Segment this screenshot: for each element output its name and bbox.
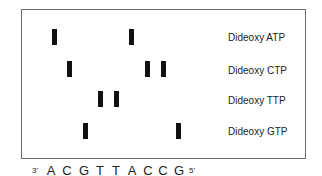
- sequence-base: C: [62, 163, 71, 176]
- sequence-base: C: [143, 163, 152, 176]
- sequence-base: A: [47, 163, 56, 176]
- band-atp-col6: [129, 29, 134, 45]
- sequence-base: C: [158, 163, 167, 176]
- sequence-base: T: [112, 163, 120, 176]
- sequence-start-label: 3': [32, 166, 38, 175]
- sequence-end-label: 5': [189, 166, 195, 175]
- band-gtp-col3: [83, 123, 88, 139]
- sequence-base: G: [174, 163, 184, 176]
- sequence-base: A: [128, 163, 137, 176]
- band-atp-col1: [52, 29, 57, 45]
- band-ttp-col5: [114, 91, 119, 107]
- lane-label-ttp: Dideoxy TTP: [228, 95, 286, 106]
- sequence-base: G: [79, 163, 89, 176]
- lane-label-atp: Dideoxy ATP: [228, 32, 285, 43]
- band-ctp-col2: [67, 61, 72, 77]
- band-ctp-col8: [161, 61, 166, 77]
- band-ctp-col7: [145, 61, 150, 77]
- band-ttp-col4: [98, 91, 103, 107]
- sequence-base: T: [96, 163, 104, 176]
- lane-label-gtp: Dideoxy GTP: [228, 126, 287, 137]
- band-gtp-col9: [176, 123, 181, 139]
- lane-label-ctp: Dideoxy CTP: [228, 65, 287, 76]
